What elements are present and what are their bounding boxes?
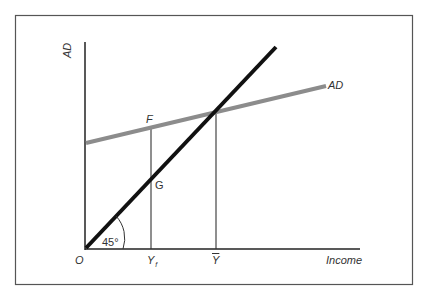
forty-five-degree-line xyxy=(86,47,276,248)
point-f-label: F xyxy=(146,114,153,125)
yf-main: Y xyxy=(147,254,154,266)
ad-line xyxy=(86,86,326,143)
yf-tick-label: Yf xyxy=(147,255,157,266)
figure-frame xyxy=(16,16,413,285)
origin-label: O xyxy=(75,255,84,266)
x-axis-label: Income xyxy=(326,255,362,266)
ybar-tick-label: Y xyxy=(212,255,219,266)
keynesian-cross-diagram: AD AD F G 45° O Yf Y Income xyxy=(0,0,426,298)
angle-label: 45° xyxy=(102,237,119,248)
point-g-label: G xyxy=(155,180,164,191)
y-axis-label: AD xyxy=(62,43,73,58)
ad-line-label: AD xyxy=(328,80,343,91)
